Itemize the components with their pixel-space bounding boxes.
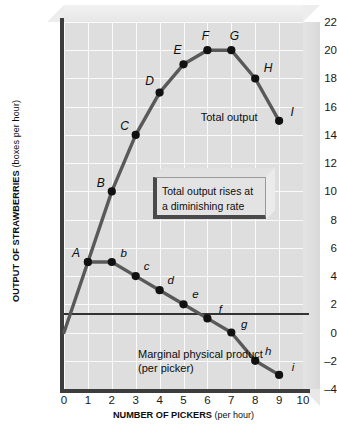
point-label-F: F: [202, 29, 209, 43]
data-point-marker: [108, 258, 116, 266]
x-tick-label: 3: [123, 394, 149, 406]
y-axis-title: OUTPUT OF STRAWBERRIES (boxes per hour): [11, 81, 21, 321]
callout-line-1: Total output rises at: [162, 184, 253, 199]
callout-box: Total output rises at a diminishing rate: [153, 177, 266, 219]
y-axis-title-main: OUTPUT OF STRAWBERRIES: [11, 170, 21, 302]
callout-right-bevel: [266, 168, 275, 220]
x-axis-title-main: NUMBER OF PICKERS: [113, 410, 212, 420]
data-point-marker: [132, 131, 140, 139]
x-tick-label: 8: [242, 394, 268, 406]
point-label-d: d: [167, 274, 173, 286]
point-label-I: I: [290, 105, 293, 119]
data-point-marker: [156, 89, 164, 97]
callout-text: Total output rises at a diminishing rate: [162, 184, 253, 214]
x-tick-label: 0: [51, 394, 77, 406]
point-label-C: C: [120, 119, 129, 133]
point-label-D: D: [145, 74, 154, 88]
x-tick-label: 4: [147, 394, 173, 406]
x-tick-label: 9: [266, 394, 292, 406]
annotation-0: Total output: [201, 111, 258, 125]
data-point-marker: [203, 314, 211, 322]
data-point-marker: [84, 258, 92, 266]
data-point-marker: [275, 371, 283, 379]
y-axis-title-unit: (boxes per hour): [11, 100, 21, 168]
data-point-marker: [156, 286, 164, 294]
callout-line-2: a diminishing rate: [162, 199, 253, 214]
point-label-G: G: [230, 29, 239, 43]
point-label-c: c: [144, 260, 150, 272]
point-label-A: A: [72, 246, 80, 260]
x-tick-label: 7: [218, 394, 244, 406]
x-tick-label: 10: [290, 394, 316, 406]
chassis-top-face: [64, 5, 303, 22]
point-label-b: b: [121, 247, 127, 259]
point-label-E: E: [173, 43, 181, 57]
callout-top-bevel: [153, 168, 276, 177]
x-axis-line: [60, 389, 310, 393]
x-axis-title-unit: (per hour): [215, 410, 255, 420]
annotation-1: Marginal physical product: [138, 348, 263, 362]
data-point-marker: [203, 46, 211, 54]
data-point-marker: [132, 272, 140, 280]
data-point-marker: [227, 328, 235, 336]
point-label-H: H: [264, 61, 273, 75]
x-tick-label: 6: [194, 394, 220, 406]
data-point-marker: [108, 187, 116, 195]
x-tick-label: 5: [171, 394, 197, 406]
data-point-marker: [179, 300, 187, 308]
annotation-2: (per picker): [138, 362, 194, 376]
point-label-B: B: [97, 176, 105, 190]
point-label-f: f: [219, 303, 222, 315]
point-label-e: e: [192, 288, 198, 300]
figure: 2220181614121086420–2–4 012345678910 OUT…: [0, 0, 337, 431]
point-label-i: i: [292, 361, 295, 373]
x-tick-label: 1: [75, 394, 101, 406]
x-axis-title: NUMBER OF PICKERS (per hour): [64, 410, 303, 420]
point-label-h: h: [265, 345, 271, 357]
x-tick-label: 2: [99, 394, 125, 406]
data-point-marker: [179, 60, 187, 68]
data-point-marker: [251, 74, 259, 82]
point-label-g: g: [241, 318, 247, 330]
data-point-marker: [227, 46, 235, 54]
data-point-marker: [275, 117, 283, 125]
